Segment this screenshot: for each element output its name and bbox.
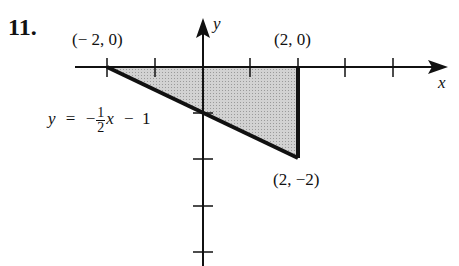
equation-sign: − [86,109,96,128]
equation-fraction: 12 [96,106,105,135]
x-axis-label: x [438,73,446,93]
equation-rest: − 1 [124,109,151,128]
equation-var: x [106,109,114,128]
y-axis-label: y [213,14,221,34]
fraction-numerator: 1 [96,106,105,121]
point-label-neg2-0: (− 2, 0) [72,30,123,50]
fraction-denominator: 2 [96,121,105,135]
equation-equals: = [66,109,76,128]
equation-lhs: y [48,109,56,128]
equation-label: y = −12x − 1 [48,106,151,135]
point-label-2-neg2: (2, −2) [273,170,319,190]
point-label-2-0: (2, 0) [274,30,311,50]
